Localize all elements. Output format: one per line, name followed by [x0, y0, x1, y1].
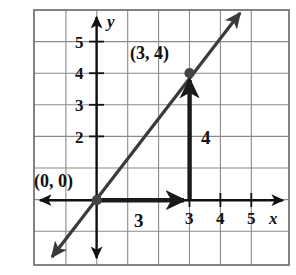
- y-tick-label-5: 5: [75, 34, 84, 51]
- origin-point-label: (0, 0): [34, 172, 73, 190]
- y-tick-label-2: 2: [75, 129, 84, 146]
- y-tick-label-3: 3: [75, 97, 84, 114]
- point-marker-3-4: [184, 68, 194, 78]
- graph-figure: y x 5 4 3 2 3 4 5 (0, 0) (3, 4) 3 4: [0, 0, 296, 275]
- coordinate-plane-svg: [0, 0, 296, 275]
- y-axis-name-label: y: [107, 13, 115, 30]
- x-tick-label-3: 3: [185, 210, 194, 227]
- y-tick-label-4: 4: [75, 65, 84, 82]
- run-value-label: 3: [134, 211, 144, 230]
- x-axis-name-label: x: [269, 210, 278, 227]
- point-3-4-label: (3, 4): [130, 44, 169, 62]
- x-tick-label-4: 4: [216, 210, 225, 227]
- rise-value-label: 4: [201, 128, 211, 147]
- x-tick-label-5: 5: [247, 210, 256, 227]
- point-marker-origin: [92, 195, 102, 205]
